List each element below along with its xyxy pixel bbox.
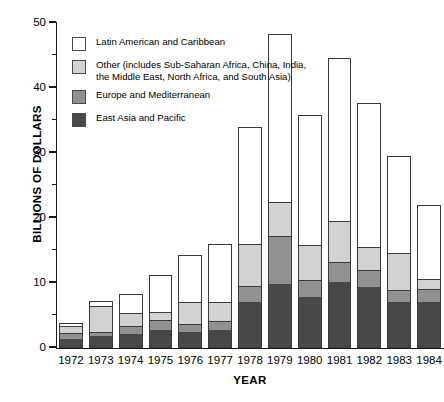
- bar-segment: [358, 287, 380, 347]
- bar-segment: [179, 302, 201, 323]
- stacked-bar[interactable]: [357, 103, 381, 347]
- y-tick-label: 20: [16, 212, 46, 224]
- legend-label: Europe and Mediterranean: [96, 89, 322, 101]
- bar-segment: [239, 286, 261, 302]
- y-tick-major: [49, 151, 56, 152]
- x-tick-label: 1976: [178, 354, 204, 366]
- y-tick-major: [49, 86, 56, 87]
- x-axis-title: YEAR: [56, 374, 444, 386]
- bar-segment: [329, 221, 351, 262]
- bar-segment: [418, 289, 440, 301]
- bar-segment: [358, 270, 380, 287]
- bar-segment: [269, 284, 291, 346]
- x-tick-label: 1973: [88, 354, 114, 366]
- bar-segment: [388, 302, 410, 346]
- x-tick-label: 1984: [416, 354, 442, 366]
- x-axis-tick-labels: 1972197319741975197619771978197919801981…: [56, 354, 444, 370]
- bar-segment: [329, 262, 351, 282]
- x-tick-label: 1978: [237, 354, 263, 366]
- stacked-bar[interactable]: [178, 255, 202, 347]
- stacked-bar[interactable]: [59, 323, 83, 348]
- bar-segment: [329, 282, 351, 346]
- bar-segment: [60, 339, 82, 347]
- x-axis-line: [56, 348, 444, 349]
- stacked-bar[interactable]: [417, 205, 441, 348]
- y-tick-major: [49, 21, 56, 22]
- bar-segment: [299, 280, 321, 297]
- bar-segment: [388, 253, 410, 290]
- stacked-bar[interactable]: [208, 244, 232, 348]
- legend-entry[interactable]: Europe and Mediterranean: [72, 89, 322, 105]
- x-tick-label: 1974: [118, 354, 144, 366]
- bar-segment: [299, 297, 321, 346]
- bar-segment: [60, 333, 82, 339]
- bar-segment: [269, 202, 291, 236]
- x-tick-label: 1972: [58, 354, 84, 366]
- stacked-bar[interactable]: [89, 301, 113, 348]
- bar-segment: [388, 290, 410, 302]
- bar-segment: [179, 332, 201, 347]
- bar-segment: [209, 330, 231, 347]
- bar-segment: [179, 324, 201, 332]
- legend-entry[interactable]: East Asia and Pacific: [72, 112, 322, 128]
- legend-label: East Asia and Pacific: [96, 112, 322, 124]
- y-tick-label: 0: [16, 342, 46, 354]
- x-tick-label: 1980: [297, 354, 323, 366]
- stacked-bar[interactable]: [119, 294, 143, 347]
- y-tick-major: [49, 281, 56, 282]
- x-tick-label: 1983: [386, 354, 412, 366]
- bar-segment: [90, 336, 112, 346]
- x-tick-label: 1982: [357, 354, 383, 366]
- bar-segment: [90, 332, 112, 337]
- y-tick-label: 40: [16, 82, 46, 94]
- x-tick-label: 1981: [327, 354, 353, 366]
- stacked-bar[interactable]: [387, 156, 411, 348]
- bar-segment: [209, 302, 231, 321]
- bar-segment: [358, 247, 380, 270]
- medium-gray-swatch: [72, 90, 86, 104]
- legend-label: Other (includes Sub-Saharan Africa, Chin…: [96, 59, 322, 82]
- bar-segment: [418, 279, 440, 289]
- dark-gray-swatch: [72, 113, 86, 127]
- y-tick-major: [49, 346, 56, 347]
- bar-segment: [150, 320, 172, 330]
- y-tick-major: [49, 216, 56, 217]
- x-tick-label: 1975: [148, 354, 174, 366]
- legend-entry[interactable]: Other (includes Sub-Saharan Africa, Chin…: [72, 59, 322, 82]
- x-tick-label: 1979: [267, 354, 293, 366]
- stacked-bar[interactable]: [298, 115, 322, 348]
- bar-segment: [299, 245, 321, 281]
- y-tick-label: 10: [16, 277, 46, 289]
- bar-segment: [150, 312, 172, 320]
- bar-segment: [60, 326, 82, 333]
- bar-segment: [120, 334, 142, 347]
- bar-segment: [239, 244, 261, 286]
- bar-segment: [90, 306, 112, 331]
- bar-segment: [150, 330, 172, 347]
- bar-segment: [120, 313, 142, 326]
- white-swatch: [72, 37, 86, 51]
- bar-segment: [120, 326, 142, 334]
- legend-label: Latin American and Caribbean: [96, 36, 322, 48]
- stacked-bar[interactable]: [238, 127, 262, 348]
- bar-segment: [209, 321, 231, 329]
- stacked-bar[interactable]: [149, 275, 173, 347]
- chart-legend: Latin American and CaribbeanOther (inclu…: [72, 36, 322, 135]
- y-tick-label: 50: [16, 17, 46, 29]
- x-tick-label: 1977: [207, 354, 233, 366]
- y-tick-label: 30: [16, 147, 46, 159]
- bar-segment: [418, 302, 440, 347]
- bar-segment: [269, 236, 291, 284]
- light-gray-swatch: [72, 60, 86, 74]
- legend-entry[interactable]: Latin American and Caribbean: [72, 36, 322, 52]
- stacked-bar[interactable]: [328, 58, 352, 348]
- bar-segment: [239, 302, 261, 347]
- stacked-bar-chart: BILLIONS OF DOLLARS 01020304050 19721973…: [0, 0, 444, 402]
